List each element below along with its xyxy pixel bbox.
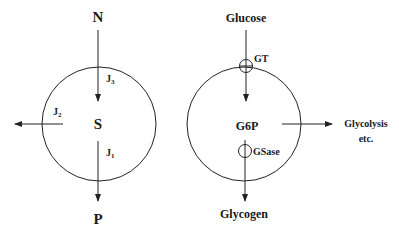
compartment-diagram: N J3 S J2 J1 P Glucose GT G6P Glycolysis…	[0, 0, 399, 236]
flux-j2-label: J2	[53, 106, 62, 119]
label-gt: GT	[254, 53, 269, 64]
label-glucose: Glucose	[226, 11, 267, 25]
label-glycogen: Glycogen	[220, 207, 268, 221]
label-gsase: GSase	[253, 146, 280, 157]
label-s: S	[94, 116, 102, 132]
left-compartment-model: N J3 S J2 J1 P	[15, 9, 156, 227]
label-p: P	[93, 211, 102, 227]
label-glycolysis: Glycolysis	[344, 118, 387, 129]
label-n: N	[93, 9, 104, 25]
label-etc: etc.	[359, 133, 374, 144]
label-g6p: G6P	[236, 119, 259, 133]
flux-j1-label: J1	[106, 147, 115, 160]
flux-j3-label: J3	[106, 73, 115, 86]
right-compartment-model: Glucose GT G6P Glycolysis etc. GSase Gly…	[187, 11, 388, 221]
